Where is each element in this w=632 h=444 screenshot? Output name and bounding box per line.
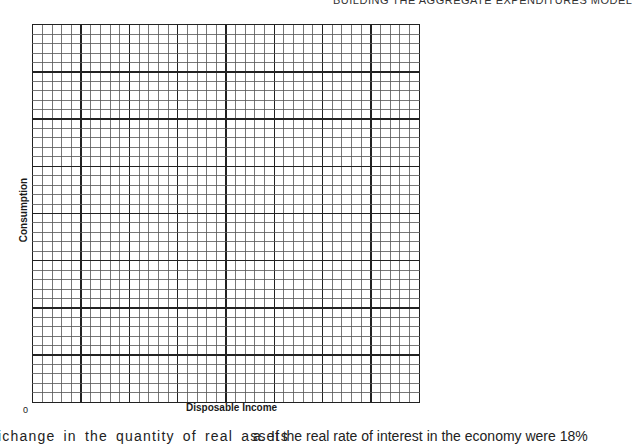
running-header: BUILDING THE AGGREGATE EXPENDITURES MODE… <box>333 0 632 6</box>
right-column-question: a.If the real rate of interest in the ec… <box>253 428 588 444</box>
y-axis-label: Consumption <box>18 178 29 242</box>
grid-svg <box>32 24 420 403</box>
origin-label: 0 <box>23 405 28 415</box>
x-axis-label: Disposable Income <box>186 402 277 413</box>
left-column-text: ichange in the quantity of real assets <box>0 428 289 444</box>
graph-paper-grid <box>32 24 420 403</box>
question-number: a. <box>253 428 271 444</box>
question-text: If the real rate of interest in the econ… <box>271 428 588 444</box>
